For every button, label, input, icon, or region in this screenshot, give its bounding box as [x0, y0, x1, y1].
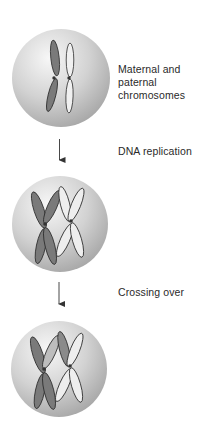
- label-maternal-paternal-chromosomes: Maternal and paternal chromosomes: [118, 63, 218, 102]
- cell-step-1: [12, 29, 110, 127]
- label-crossing-over: Crossing over: [118, 286, 184, 299]
- diagram-canvas: Maternal and paternal chromosomes DNA re…: [0, 0, 219, 430]
- cell-step-2: [12, 176, 108, 272]
- label-dna-replication: DNA replication: [118, 145, 192, 158]
- cell-step-3: [11, 321, 107, 417]
